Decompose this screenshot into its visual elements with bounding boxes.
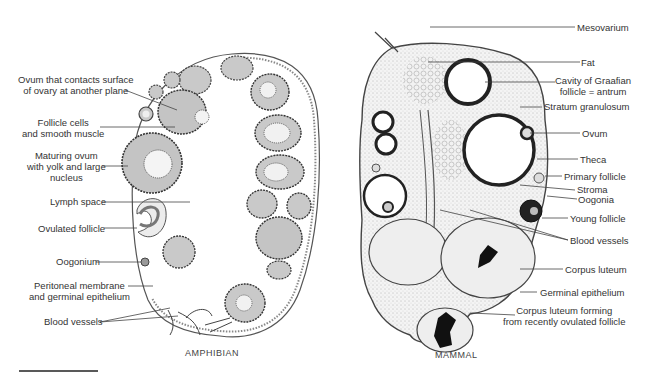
label-theca: Theca — [580, 154, 606, 165]
label-line: and smooth muscle — [22, 128, 104, 139]
label-corpus-luteum: Corpus luteum — [565, 264, 627, 275]
label-germinal-epithelium: Germinal epithelium — [540, 287, 624, 298]
label-oogonia: Oogonia — [578, 194, 614, 205]
label-primary-follicle: Primary follicle — [564, 171, 626, 182]
caption-amphibian: AMPHIBIAN — [185, 348, 239, 358]
label-line: Follicle cells — [22, 117, 104, 128]
label-maturing-ovum: Maturing ovum with yolk and large nucleu… — [27, 150, 106, 183]
label-mammal-blood-vessels: Blood vessels — [570, 235, 629, 246]
label-line: Corpus luteum forming — [503, 305, 626, 316]
label-mesovarium: Mesovarium — [577, 22, 629, 33]
mammal-ovary — [360, 32, 548, 352]
label-line: Peritoneal membrane — [29, 280, 130, 291]
label-line: Maturing ovum — [27, 150, 106, 161]
label-line: Cavity of Graafian — [555, 75, 631, 86]
ovary-comparison-figure: Ovum that contacts surface of ovary at a… — [0, 0, 647, 376]
label-line: with yolk and large — [27, 161, 106, 172]
label-stratum-granulosum: Stratum granulosum — [544, 101, 630, 112]
amphibian-ovary — [122, 53, 319, 336]
label-line: and germinal epithelium — [29, 291, 130, 302]
label-ovum: Ovum — [582, 128, 607, 139]
label-follicle-cells: Follicle cells and smooth muscle — [22, 117, 104, 139]
label-cavity-graafian: Cavity of Graafian follicle = antrum — [555, 75, 631, 97]
label-lymph-space: Lymph space — [50, 196, 106, 207]
label-corpus-luteum-forming: Corpus luteum forming from recently ovul… — [503, 305, 626, 327]
label-peritoneal-membrane: Peritoneal membrane and germinal epithel… — [29, 280, 130, 302]
label-fat: Fat — [581, 57, 595, 68]
label-ovum-contacts-surface: Ovum that contacts surface of ovary at a… — [18, 74, 134, 96]
label-line: follicle = antrum — [555, 86, 631, 97]
label-young-follicle: Young follicle — [570, 213, 626, 224]
caption-mammal: MAMMAL — [435, 350, 478, 360]
label-ovulated-follicle: Ovulated follicle — [38, 223, 105, 234]
label-line: from recently ovulated follicle — [503, 316, 626, 327]
label-amphibian-blood-vessels: Blood vessels — [44, 316, 103, 327]
label-line: of ovary at another plane — [18, 85, 134, 96]
label-line: Ovum that contacts surface — [18, 74, 134, 85]
label-oogonium: Oogonium — [56, 256, 100, 267]
label-line: nucleus — [27, 172, 106, 183]
